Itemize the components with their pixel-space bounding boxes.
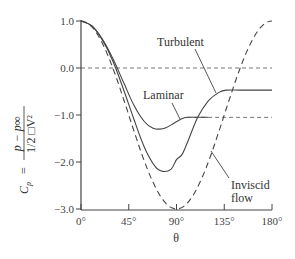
turbulent-leader-line: [195, 49, 216, 93]
inviscid-label: Inviscid: [231, 178, 270, 192]
y-axis-title-numerator: p − p∞: [10, 116, 24, 152]
x-tick-label: 0°: [76, 215, 86, 227]
y-axis-title-eq: =: [17, 167, 31, 174]
turbulent-label: Turbulent: [157, 35, 205, 49]
y-ticks: 1.00.0−1.0−2.0−3.0: [54, 15, 81, 215]
y-axis-title-lhs: Cp: [17, 182, 33, 194]
laminar-leader-line: [172, 103, 180, 119]
inviscid-leader-line: [211, 151, 229, 178]
y-tick-label: −1.0: [54, 109, 74, 121]
x-axis-title: θ: [173, 231, 179, 245]
y-tick-label: −3.0: [54, 203, 74, 215]
x-tick-label: 180°: [262, 215, 283, 227]
x-tick-label: 135°: [214, 215, 235, 227]
pressure-coefficient-chart: 1.00.0−1.0−2.0−3.0 0°45°90°135°180° Turb…: [0, 0, 295, 259]
laminar-label: Laminar: [143, 88, 184, 102]
x-tick-label: 45°: [121, 215, 136, 227]
y-tick-label: −2.0: [54, 156, 74, 168]
x-tick-label: 90°: [169, 215, 184, 227]
y-tick-label: 1.0: [60, 15, 74, 27]
x-ticks: 0°45°90°135°180°: [76, 204, 282, 227]
y-axis-title-denominator: 1/2 □V²: [24, 115, 38, 153]
y-tick-label: 0.0: [60, 62, 74, 74]
y-axis-title: Cp = p − p∞ 1/2 □V²: [10, 106, 38, 194]
inviscid-flow-label: flow: [231, 191, 253, 205]
